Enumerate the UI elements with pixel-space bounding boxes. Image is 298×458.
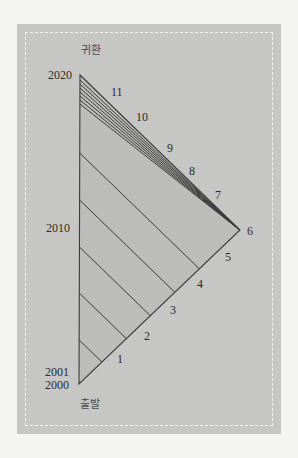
year-2001-label: 2001	[45, 366, 69, 378]
point-1-label: 1	[117, 353, 123, 365]
point-8-label: 8	[189, 165, 195, 177]
point-10-label: 10	[136, 111, 148, 123]
point-9-label: 9	[167, 142, 173, 154]
departure-label: 출발	[80, 399, 100, 410]
point-6-label: 6	[247, 225, 253, 237]
point-4-label: 4	[197, 278, 203, 290]
return-label: 귀환	[81, 45, 101, 56]
point-7-label: 7	[215, 189, 221, 201]
point-5-label: 5	[225, 251, 231, 263]
year-2010-label: 2010	[46, 222, 70, 234]
point-3-label: 3	[170, 304, 176, 316]
point-11-label: 11	[111, 86, 123, 98]
triangle-fill	[79, 75, 240, 384]
point-2-label: 2	[144, 330, 150, 342]
year-2020-label: 2020	[48, 69, 72, 81]
year-2000-label: 2000	[45, 379, 69, 391]
